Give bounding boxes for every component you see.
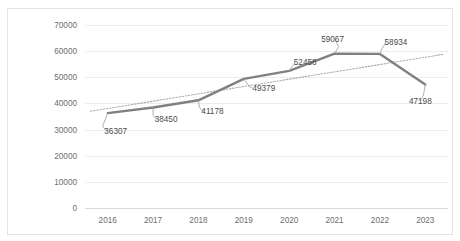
y-tick-label: 60000 (54, 47, 77, 56)
y-tick-label: 10000 (54, 178, 77, 187)
data-label: 47198 (409, 97, 432, 106)
y-tick-label: 40000 (54, 99, 77, 108)
data-label: 41178 (201, 107, 224, 116)
x-tick-label: 2019 (235, 216, 254, 225)
y-tick-label: 50000 (54, 73, 77, 82)
data-label: 38450 (155, 115, 178, 124)
data-label: 49379 (252, 84, 275, 93)
y-tick-label: 0 (72, 204, 77, 213)
data-point-labels: 3630738450411784937952458590675893447198 (104, 35, 432, 137)
gridlines-group (85, 26, 448, 209)
x-tick-label: 2021 (325, 216, 344, 225)
x-tick-label: 2023 (416, 216, 435, 225)
line-chart: 010000200003000040000500006000070000 201… (8, 9, 452, 234)
data-label: 36307 (104, 127, 127, 136)
x-axis-tick-labels: 20162017201820192020202120222023 (99, 216, 435, 225)
x-tick-label: 2016 (99, 216, 118, 225)
x-tick-label: 2018 (189, 216, 208, 225)
y-tick-label: 70000 (54, 21, 77, 30)
data-label: 58934 (385, 38, 408, 47)
data-label: 59067 (321, 35, 344, 44)
x-tick-label: 2022 (371, 216, 390, 225)
x-tick-label: 2017 (144, 216, 163, 225)
x-tick-label: 2020 (280, 216, 299, 225)
trendline-series (90, 54, 442, 111)
chart-frame: 010000200003000040000500006000070000 201… (7, 8, 453, 235)
data-label: 52458 (294, 58, 317, 67)
y-tick-label: 20000 (54, 152, 77, 161)
y-axis-tick-labels: 010000200003000040000500006000070000 (54, 21, 77, 213)
y-tick-label: 30000 (54, 126, 77, 135)
